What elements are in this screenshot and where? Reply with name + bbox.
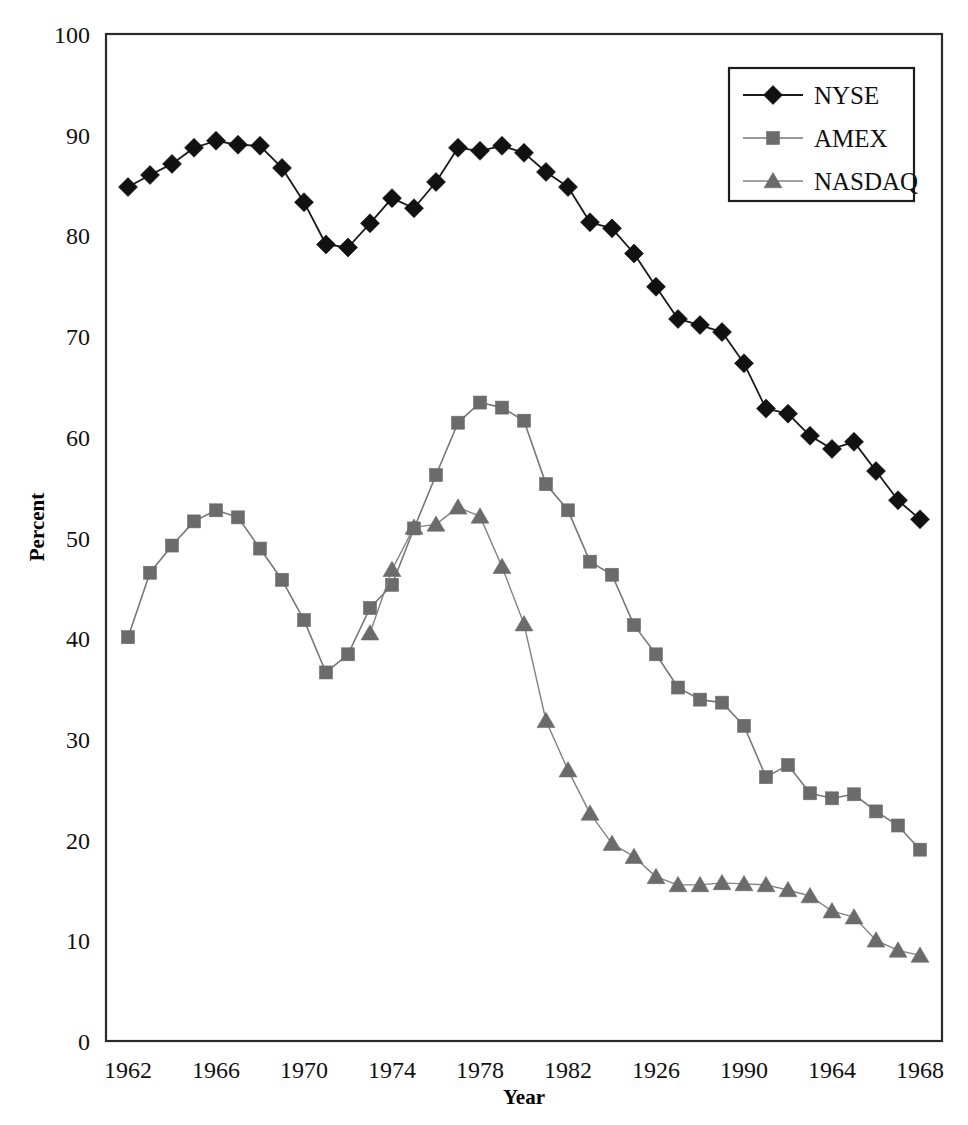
data-point-amex-22 [606,568,619,581]
x-tick-label-1974: 1974 [368,1057,416,1083]
data-point-amex-30 [782,759,795,772]
data-point-amex-23 [628,619,641,632]
y-axis-tick-labels: 0102030405060708090100 [54,22,90,1055]
data-point-amex-33 [848,788,861,801]
y-tick-label-100: 100 [54,22,90,48]
x-tick-label-1978: 1978 [456,1057,504,1083]
y-tick-label-40: 40 [66,626,90,652]
y-axis-title: Percent [25,493,49,561]
data-point-amex-17 [496,401,509,414]
data-point-amex-3 [188,515,201,528]
data-point-amex-21 [584,555,597,568]
data-point-amex-16 [474,396,487,409]
data-point-amex-9 [320,666,333,679]
data-point-amex-10 [342,648,355,661]
y-tick-label-80: 80 [66,223,90,249]
x-tick-label-1962: 1962 [104,1057,152,1083]
y-tick-label-30: 30 [66,727,90,753]
y-tick-label-60: 60 [66,425,90,451]
y-tick-label-50: 50 [66,526,90,552]
legend-label-amex: AMEX [814,125,888,152]
data-point-amex-18 [518,414,531,427]
chart-legend[interactable]: NYSEAMEXNASDAQ [729,68,918,201]
x-axis-title: Year [503,1085,545,1109]
y-tick-label-90: 90 [66,123,90,149]
data-point-amex-35 [892,819,905,832]
data-point-amex-15 [452,416,465,429]
x-tick-label-1970: 1970 [280,1057,328,1083]
data-point-amex-14 [430,469,443,482]
x-tick-label-1982: 1982 [544,1057,592,1083]
data-point-amex-25 [672,681,685,694]
y-tick-label-0: 0 [78,1029,90,1055]
data-point-amex-29 [760,771,773,784]
legend-label-nasdaq: NASDAQ [814,168,918,195]
data-point-amex-20 [562,504,575,517]
data-point-amex-11 [364,601,377,614]
data-point-amex-31 [804,787,817,800]
chart-container: 0102030405060708090100 19621966197019741… [0,0,968,1125]
data-point-amex-32 [826,792,839,805]
x-tick-label-1966: 1966 [192,1057,240,1083]
x-axis-tick-labels: 1962196619701974197819821926199019641968 [104,1057,944,1083]
x-tick-label-1968: 1968 [896,1057,944,1083]
data-point-amex-4 [210,504,223,517]
x-tick-label-1964: 1964 [808,1057,856,1083]
data-point-amex-28 [738,719,751,732]
x-tick-label-1926: 1926 [632,1057,680,1083]
data-point-amex-27 [716,696,729,709]
data-point-amex-34 [870,805,883,818]
data-point-amex-5 [232,511,245,524]
y-tick-label-70: 70 [66,324,90,350]
data-point-amex-6 [254,542,267,555]
line-chart: 0102030405060708090100 19621966197019741… [0,0,968,1125]
data-point-amex-26 [694,693,707,706]
data-point-amex-0 [122,631,135,644]
x-tick-label-1990: 1990 [720,1057,768,1083]
data-point-amex-7 [276,573,289,586]
legend-label-nyse: NYSE [814,82,879,109]
data-point-amex-2 [166,539,179,552]
data-point-amex-legend [767,132,780,145]
y-tick-label-20: 20 [66,828,90,854]
data-point-amex-24 [650,648,663,661]
data-point-amex-36 [914,843,927,856]
data-point-amex-8 [298,614,311,627]
y-tick-label-10: 10 [66,928,90,954]
data-point-amex-1 [144,566,157,579]
data-point-amex-19 [540,478,553,491]
